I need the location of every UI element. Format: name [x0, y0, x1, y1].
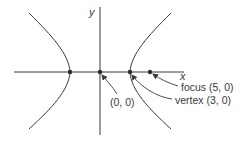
origin-label: (0, 0) — [110, 96, 135, 108]
vertex-leader-arrow — [132, 75, 172, 99]
origin-leader-arrow — [102, 75, 117, 94]
hyperbola-diagram: y x (0, 0) focus (5, 0) vertex (3, 0) — [0, 0, 240, 142]
left-hyperbola-branch — [29, 13, 70, 129]
focus-leader-arrow — [153, 74, 178, 86]
vertex-label: vertex (3, 0) — [175, 94, 231, 106]
y-axis-label: y — [88, 6, 96, 18]
origin-point — [98, 70, 102, 74]
focus-label: focus (5, 0) — [181, 81, 234, 93]
right-vertex-point — [128, 70, 132, 74]
focus-point — [148, 70, 152, 74]
left-vertex-point — [68, 70, 72, 74]
